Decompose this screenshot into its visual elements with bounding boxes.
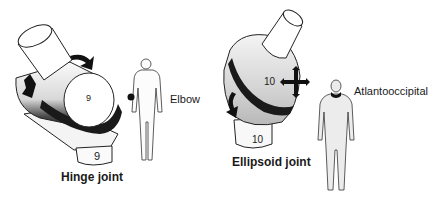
bone-number-top: 10 [264,76,275,87]
bone-number-bottom: 10 [252,134,263,145]
hinge-joint-panel: 9 9 Elbow Hinge joint [0,0,212,198]
panel-title-ellipsoid-joint: Ellipsoid joint [232,155,311,169]
elbow-marker [128,94,135,101]
bone-number-top: 9 [86,93,91,103]
example-label-atlantooccipital: Atlantooccipital [354,85,428,97]
ellipsoid-joint-panel: 10 10 Atlantooccipital Ellipsoid joint [212,0,424,198]
bone-number-bottom: 9 [94,150,100,162]
example-label-elbow: Elbow [170,93,200,105]
panel-title-hinge-joint: Hinge joint [61,170,123,184]
